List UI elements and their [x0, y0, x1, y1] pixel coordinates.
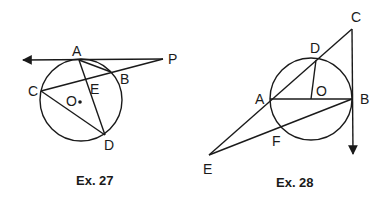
point-label-e: E: [203, 161, 212, 177]
tangent-line-cb: [352, 29, 353, 154]
point-label-e: E: [90, 81, 99, 97]
chord-ad: [79, 60, 105, 135]
point-label-b: B: [360, 91, 369, 107]
point-label-d: D: [104, 137, 114, 153]
point-label-d: D: [310, 40, 320, 56]
point-label-f: F: [272, 133, 281, 149]
point-label-c: C: [351, 9, 361, 25]
secant-pc: [41, 59, 163, 91]
point-label-b: B: [120, 71, 129, 87]
point-label-p: P: [168, 51, 177, 67]
figure-ex28: C D A O B F E Ex. 28: [203, 9, 369, 190]
caption-ex27: Ex. 27: [76, 173, 114, 188]
point-label-o: O: [66, 93, 77, 109]
geometry-figures: A B C D E O P Ex. 27 C D A O B F E Ex. 2…: [0, 0, 385, 200]
center-dot: [78, 100, 82, 104]
point-label-a: A: [72, 43, 82, 59]
point-label-c: C: [28, 83, 38, 99]
point-label-o: O: [316, 83, 327, 99]
caption-ex28: Ex. 28: [276, 175, 314, 190]
point-label-a: A: [255, 91, 265, 107]
tangent-line-pa: [23, 59, 163, 60]
figure-ex27: A B C D E O P Ex. 27: [23, 43, 177, 188]
